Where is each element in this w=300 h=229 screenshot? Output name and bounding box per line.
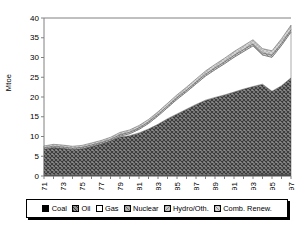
legend-items: CoalOilGasNuclearHydro/Oth.Comb. Renew. [42,205,272,213]
x-tick-label: 1993 [249,181,258,190]
y-tick-label: 35 [30,33,39,42]
legend-item-coal[interactable]: Coal [42,205,67,213]
y-tick-label: 15 [30,112,39,121]
x-tick-label: 1979 [116,181,125,190]
legend-label: Nuclear [133,205,158,213]
legend-swatch-icon [96,205,103,212]
x-tick-label: 1989 [211,181,220,190]
legend-swatch-icon [124,205,131,212]
y-tick-label: 0 [35,172,40,181]
x-tick-label: 1991 [230,181,239,190]
legend-swatch-icon [214,205,221,212]
x-tick-label: 1997 [287,181,296,190]
legend-swatch-icon [72,205,79,212]
legend-swatch-icon [42,205,49,212]
x-tick-label: 1987 [192,181,201,190]
chart-legend: CoalOilGasNuclearHydro/Oth.Comb. Renew. [26,199,288,218]
legend-item-comb-renew[interactable]: Comb. Renew. [214,205,272,213]
y-tick-label: 40 [30,14,39,23]
legend-swatch-icon [164,205,171,212]
legend-item-gas[interactable]: Gas [96,205,119,213]
legend-label: Gas [105,205,119,213]
chart-root: Mtoe 05101520253035401971197319751977197… [0,0,300,229]
x-tick-label: 1981 [135,181,144,190]
x-tick-label: 1985 [173,181,182,190]
x-tick-label: 1995 [268,181,277,190]
x-tick-label: 1971 [40,181,49,190]
legend-label: Hydro/Oth. [173,205,209,213]
plot-area: Mtoe 05101520253035401971197319751977197… [0,0,300,190]
y-tick-label: 5 [35,152,40,161]
y-tick-label: 10 [30,132,39,141]
y-tick-label: 25 [30,73,39,82]
x-tick-label: 1977 [97,181,106,190]
x-tick-label: 1973 [59,181,68,190]
legend-label: Comb. Renew. [223,205,271,213]
x-tick-label: 1983 [154,181,163,190]
legend-item-hydro-oth[interactable]: Hydro/Oth. [164,205,209,213]
y-tick-label: 20 [30,93,39,102]
legend-item-nuclear[interactable]: Nuclear [124,205,159,213]
y-tick-label: 30 [30,53,39,62]
legend-label: Coal [52,205,67,213]
stacked-area-chart: 0510152025303540197119731975197719791981… [0,0,300,190]
legend-label: Oil [81,205,90,213]
x-tick-label: 1975 [78,181,87,190]
area-series-oil [44,78,291,175]
legend-item-oil[interactable]: Oil [72,205,91,213]
